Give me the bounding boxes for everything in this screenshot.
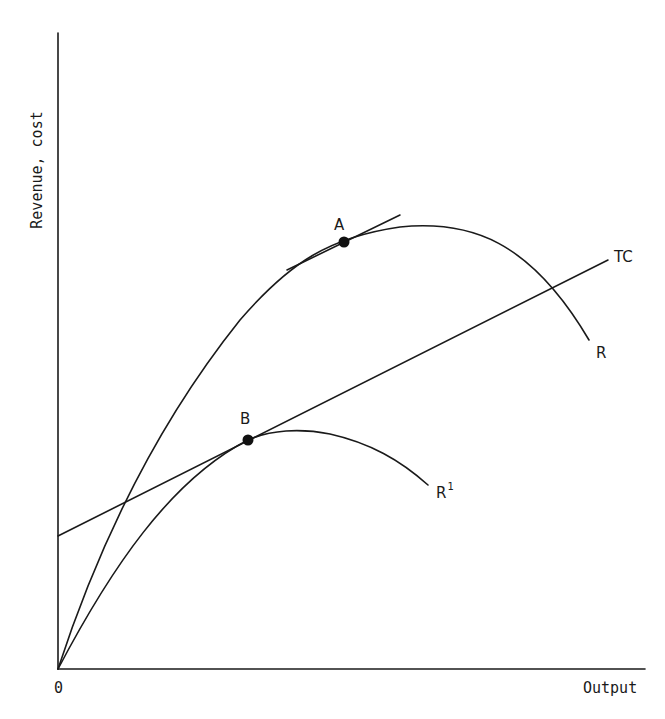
r-curve	[58, 226, 589, 669]
origin-label: 0	[54, 679, 63, 697]
y-axis-label: Revenue, cost	[28, 111, 46, 228]
r1-label-superscript: 1	[447, 481, 453, 492]
r1-label-main: R	[436, 484, 446, 502]
point-a-label: A	[334, 216, 345, 234]
r1-curve	[58, 431, 428, 669]
r1-label: R1	[436, 481, 454, 502]
point-b	[243, 435, 254, 446]
revenue-cost-diagram: Revenue, cost 0 Output TC R A R1 B	[0, 0, 665, 719]
tc-label: TC	[613, 248, 633, 266]
r-label: R	[596, 344, 606, 362]
x-axis-label: Output	[583, 679, 637, 697]
point-a	[339, 237, 350, 248]
point-b-label: B	[240, 410, 250, 428]
tc-line	[58, 260, 608, 536]
